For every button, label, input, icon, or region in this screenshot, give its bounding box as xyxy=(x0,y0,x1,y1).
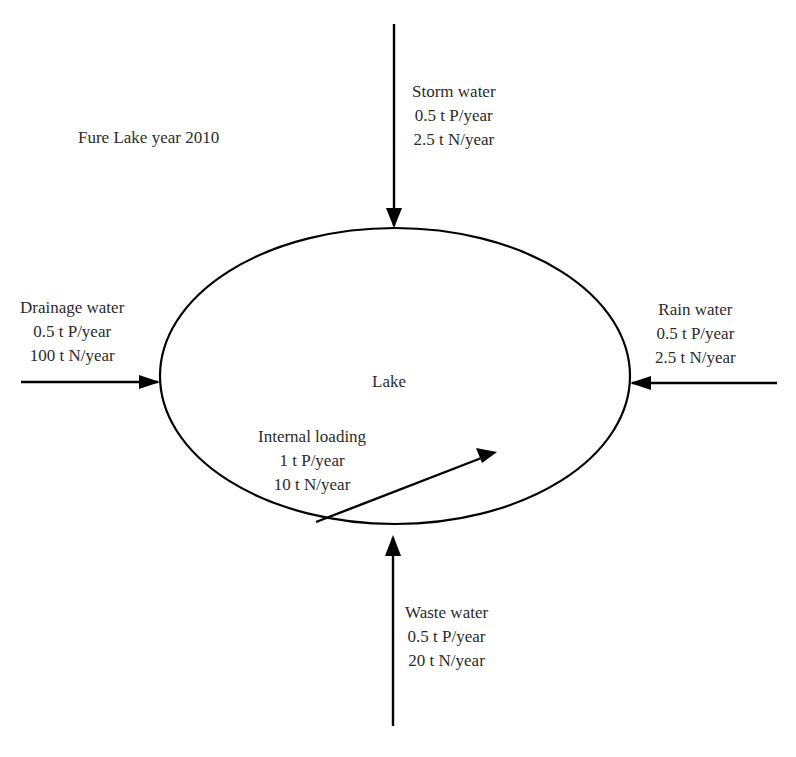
drainage-name: Drainage water xyxy=(20,296,124,320)
lake-label: Lake xyxy=(372,370,406,394)
storm-name: Storm water xyxy=(412,80,496,104)
waste-name: Waste water xyxy=(405,601,488,625)
title-text: Fure Lake year 2010 xyxy=(78,126,219,150)
internal-n: 10 t N/year xyxy=(258,473,366,497)
drainage-p: 0.5 t P/year xyxy=(20,320,124,344)
storm-water-label: Storm water 0.5 t P/year 2.5 t N/year xyxy=(412,80,496,152)
waste-water-label: Waste water 0.5 t P/year 20 t N/year xyxy=(405,601,488,673)
lake-text: Lake xyxy=(372,370,406,394)
rain-water-label: Rain water 0.5 t P/year 2.5 t N/year xyxy=(655,298,736,370)
waste-n: 20 t N/year xyxy=(405,649,488,673)
rain-p: 0.5 t P/year xyxy=(655,322,736,346)
storm-p: 0.5 t P/year xyxy=(412,104,496,128)
rain-name: Rain water xyxy=(655,298,736,322)
internal-p: 1 t P/year xyxy=(258,449,366,473)
drainage-n: 100 t N/year xyxy=(20,344,124,368)
storm-n: 2.5 t N/year xyxy=(412,128,496,152)
internal-loading-label: Internal loading 1 t P/year 10 t N/year xyxy=(258,425,366,497)
drainage-water-label: Drainage water 0.5 t P/year 100 t N/year xyxy=(20,296,124,368)
waste-p: 0.5 t P/year xyxy=(405,625,488,649)
internal-name: Internal loading xyxy=(258,425,366,449)
rain-n: 2.5 t N/year xyxy=(655,346,736,370)
diagram-title: Fure Lake year 2010 xyxy=(78,126,219,150)
